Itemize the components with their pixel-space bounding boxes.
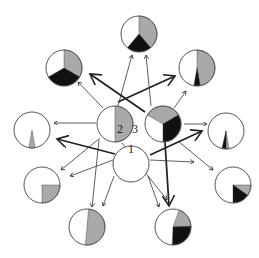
pie-node-top — [121, 16, 157, 52]
arrow-node-3-to-bottom-right — [165, 142, 169, 206]
arrow-node-2-to-upper-left — [78, 82, 103, 108]
pie-node-node-2 — [97, 106, 133, 142]
arrow-node-2-to-upper-right — [118, 76, 175, 102]
arrow-node-2-to-lower-left — [61, 138, 100, 170]
pie-node-upper-left — [46, 50, 82, 86]
pie-node-right — [208, 113, 244, 149]
arrow-node-1-to-lower-right — [150, 160, 194, 162]
pie-node-node-3 — [145, 106, 181, 142]
arrow-node-3-to-top — [146, 55, 151, 106]
arrow-node-3-to-upper-right — [174, 91, 186, 108]
node-label-2: 2 — [117, 122, 123, 136]
pie-node-upper-right — [179, 50, 215, 86]
arrow-node-1-to-bottom-left — [103, 176, 114, 206]
pie-slice-gray — [197, 50, 215, 86]
pie-transition-diagram: 123 — [0, 0, 259, 258]
pie-node-bottom-right — [155, 209, 191, 245]
node-label-1: 1 — [128, 142, 134, 156]
arrow-node-1-to-upper-left-bold — [57, 139, 115, 154]
pie-slice-gray — [85, 209, 105, 245]
arrow-node-1-to-left-side — [70, 160, 113, 176]
arrow-node-3-to-lower-right — [178, 141, 213, 170]
arrow-node-1-to-bottom-right — [148, 176, 159, 207]
pie-node-lower-left — [24, 167, 60, 203]
pie-node-bottom-left — [69, 209, 105, 245]
pie-node-left — [14, 112, 50, 148]
node-label-3: 3 — [132, 122, 138, 136]
pie-node-lower-right — [215, 167, 251, 203]
